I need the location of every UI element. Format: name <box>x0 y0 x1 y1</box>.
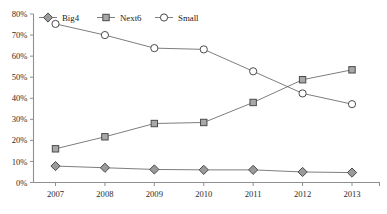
data-point <box>51 161 60 170</box>
legend-item-next6[interactable] <box>97 14 115 20</box>
series-layer <box>51 20 357 177</box>
legend-marker-square-icon <box>103 14 109 20</box>
x-tick-label: 2008 <box>96 189 113 199</box>
y-tick-label: 10% <box>12 157 28 167</box>
data-point <box>249 165 258 174</box>
series-small <box>52 20 356 107</box>
y-tick-label: 0% <box>16 178 27 188</box>
data-point <box>250 99 256 105</box>
x-tick-label: 2011 <box>245 189 262 199</box>
data-point <box>100 163 109 172</box>
y-tick-label: 20% <box>12 135 28 145</box>
series-line <box>56 70 353 149</box>
data-point <box>200 46 207 53</box>
legend-marker-circle-icon <box>160 14 167 21</box>
data-point <box>151 45 158 52</box>
data-point <box>349 67 355 73</box>
x-tick-label: 2009 <box>146 189 163 199</box>
data-point <box>101 31 108 38</box>
x-tick-label: 2012 <box>294 189 311 199</box>
y-axis-tick-labels: 0%10%20%30%40%50%60%70%80% <box>12 9 28 188</box>
legend-label: Next6 <box>120 13 142 23</box>
y-tick-label: 80% <box>12 9 28 19</box>
axis-group <box>34 14 381 183</box>
data-point <box>348 101 355 108</box>
data-point <box>299 77 305 83</box>
data-point <box>52 20 59 27</box>
data-point <box>298 167 307 176</box>
chart-canvas: 0%10%20%30%40%50%60%70%80% 2007200820092… <box>0 0 387 214</box>
data-point <box>347 168 356 177</box>
series-line <box>56 24 353 104</box>
data-point <box>299 90 306 97</box>
data-point <box>151 120 157 126</box>
legend-item-small[interactable] <box>155 14 173 21</box>
data-point <box>201 119 207 125</box>
data-point <box>199 165 208 174</box>
y-tick-label: 30% <box>12 114 28 124</box>
y-tick-label: 50% <box>12 72 28 82</box>
line-chart: 0%10%20%30%40%50%60%70%80% 2007200820092… <box>0 0 387 214</box>
legend-label: Big4 <box>62 13 80 23</box>
x-tick-label: 2007 <box>47 189 65 199</box>
series-big4 <box>51 161 357 177</box>
y-tick-label: 40% <box>12 93 28 103</box>
data-point <box>150 165 159 174</box>
x-tick-label: 2010 <box>195 189 212 199</box>
data-point <box>250 68 257 75</box>
chart-legend: Big4Next6Small <box>39 13 199 23</box>
x-tick-label: 2013 <box>343 189 360 199</box>
legend-label: Small <box>178 13 199 23</box>
y-tick-label: 70% <box>12 30 28 40</box>
legend-marker-diamond-icon <box>43 13 52 22</box>
x-axis-tick-labels: 2007200820092010201120122013 <box>47 189 361 199</box>
series-next6 <box>52 67 355 152</box>
data-point <box>52 146 58 152</box>
data-point <box>102 134 108 140</box>
y-tick-label: 60% <box>12 51 28 61</box>
